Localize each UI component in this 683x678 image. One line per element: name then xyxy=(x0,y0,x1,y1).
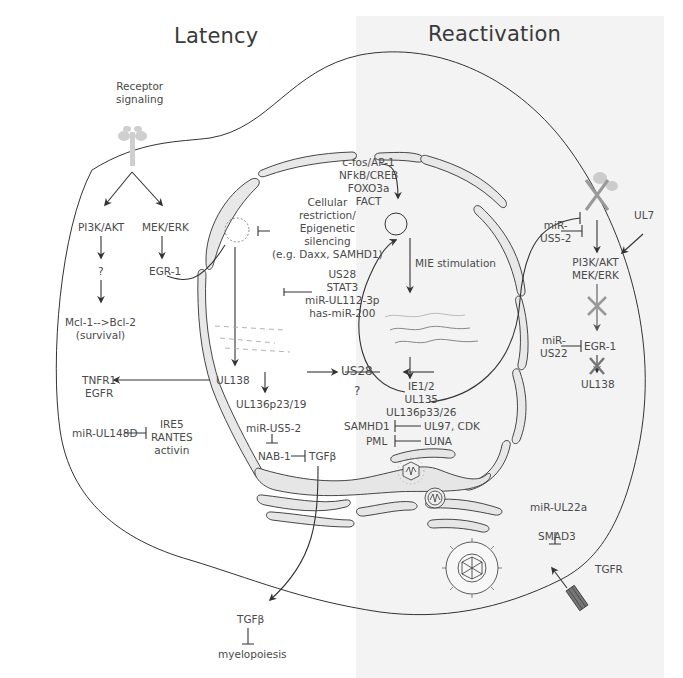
luna-label: LUNA xyxy=(424,435,452,448)
mir-us22-label: miR- US22 xyxy=(540,334,568,360)
virion-capsid-nucleus xyxy=(425,488,445,508)
tgfr-receptor-icon xyxy=(566,585,588,610)
reactivation-title: Reactivation xyxy=(428,22,561,46)
latency-title: Latency xyxy=(174,24,258,48)
us28-stat3-label: US28 STAT3 miR-UL112-3p has-miR-200 xyxy=(305,268,380,320)
us28-question-label: ? xyxy=(354,385,360,398)
ul138-reactivation-label: UL138 xyxy=(581,378,615,391)
mcl-bcl-label: Mcl-1-->Bcl-2 (survival) xyxy=(65,316,136,342)
ul97-cdk-label: UL97, CDK xyxy=(424,420,480,433)
tgfb-latency-label: TGFβ xyxy=(309,450,336,463)
diagram: Latency Reactivation Receptor signaling … xyxy=(0,0,683,678)
tnfr-egfr-label: TNFR1 EGFR xyxy=(82,374,116,400)
egr1-label: EGR-1 xyxy=(149,265,181,278)
nab1-label: NAB-1 xyxy=(258,450,291,463)
mek-erk-label: MEK/ERK xyxy=(142,221,189,234)
enveloped-virion xyxy=(442,538,502,598)
ul138-latency-label: UL138 xyxy=(216,374,250,387)
golgi-stacks xyxy=(255,449,502,532)
receptor-icon xyxy=(118,126,147,166)
receptor-signaling-label: Receptor signaling xyxy=(116,80,163,106)
pi3k-mek-reactivation-label: PI3K/AKT MEK/ERK xyxy=(572,256,619,282)
ul7-label: UL7 xyxy=(634,209,654,222)
smad3-label: SMAD3 xyxy=(538,530,576,543)
us28-center-label: US28 xyxy=(341,365,373,378)
pml-label: PML xyxy=(366,435,387,448)
mie-stimulation-label: MIE stimulation xyxy=(415,257,496,270)
mir-ul22a-label: miR-UL22a xyxy=(530,501,587,514)
active-episome xyxy=(385,213,407,235)
pi3k-akt-label: PI3K/AKT xyxy=(78,221,124,234)
blocked-receptor-icon xyxy=(586,172,618,210)
egr1-reactivation-label: EGR-1 xyxy=(584,340,616,353)
ie-genes-label: IE1/2 UL135 UL136p33/26 xyxy=(386,380,457,419)
mir-ul148d-label: miR-UL148D xyxy=(72,427,137,440)
mir-us5-2-reactivation-label: miR- US5-2 xyxy=(540,219,572,245)
ul136-latency-label: UL136p23/19 xyxy=(236,398,307,411)
latent-transcripts xyxy=(215,326,290,352)
active-transcripts xyxy=(385,313,478,343)
unknown-label: ? xyxy=(98,265,104,278)
transcription-factors-label: c-fos/AP-1 NFkB/CREB FOXO3a FACT xyxy=(339,156,398,208)
mir-us5-2-latency-label: miR-US5-2 xyxy=(246,422,301,435)
tgfr-label: TGFR xyxy=(595,563,623,576)
ire5-rantes-label: IRE5 RANTES activin xyxy=(151,418,193,457)
myelopoiesis-label: myelopoiesis xyxy=(218,648,287,661)
samhd1-label: SAMHD1 xyxy=(344,420,390,433)
tgfb-secreted-label: TGFβ xyxy=(237,613,264,626)
